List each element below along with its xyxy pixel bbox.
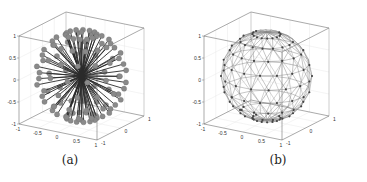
vector-tip-marker: [121, 86, 126, 91]
mesh-vertex: [308, 64, 310, 66]
mesh-edge: [254, 61, 260, 76]
y-tick-label: -1: [286, 140, 291, 146]
vector-tip-marker: [51, 43, 56, 48]
mesh-edge: [251, 90, 265, 91]
x-tick-label: -1: [201, 126, 206, 132]
z-tick-label: 0: [13, 77, 16, 83]
mesh-edge: [282, 45, 289, 47]
mesh-edge: [300, 70, 303, 86]
mesh-edge: [241, 76, 256, 78]
mesh-vertex: [255, 30, 257, 32]
mesh-edge: [233, 55, 242, 59]
vector-tip-marker: [54, 35, 59, 40]
mesh-edge: [268, 62, 277, 76]
mesh-vertex: [302, 69, 304, 71]
mesh-edge: [293, 102, 303, 113]
mesh-edge: [260, 103, 266, 113]
mesh-edge: [254, 103, 260, 113]
vector-tip-marker: [41, 47, 46, 52]
x-tick-label: -1: [16, 126, 21, 132]
mesh-edge: [291, 94, 300, 98]
mesh-edge: [229, 55, 232, 66]
vector-tip-marker: [34, 64, 39, 69]
mesh-edge: [253, 38, 262, 47]
vector-tip-marker: [107, 110, 112, 115]
y-tick-label: 0: [125, 128, 128, 134]
mesh-vertex: [293, 57, 295, 59]
mesh-vertex: [267, 61, 269, 63]
vector-tip-marker: [112, 45, 117, 50]
mesh-vertex: [311, 75, 313, 77]
vector-tip-marker: [81, 120, 86, 125]
mesh-edge: [244, 74, 260, 76]
mesh-vertex: [276, 75, 278, 77]
x-tick-label: -0.5: [218, 130, 227, 136]
mesh-vertex: [302, 49, 304, 51]
y-tick-label: 0: [310, 128, 313, 134]
vector-tip-marker: [59, 62, 64, 67]
mesh-vertex: [256, 36, 258, 38]
vector-tip-marker: [123, 80, 128, 85]
vector-tip-marker: [94, 95, 99, 100]
mesh-vertex: [253, 35, 255, 37]
vector-tip-marker: [111, 91, 116, 96]
mesh-vertex: [239, 109, 241, 111]
mesh-vertex: [235, 85, 237, 87]
mesh-vertex: [242, 35, 244, 37]
mesh-edge: [280, 105, 288, 107]
vector-tip-marker: [64, 115, 69, 120]
mesh-vertex: [276, 102, 278, 104]
vector-tip-marker: [40, 52, 45, 57]
caption-b: (b): [258, 153, 298, 167]
vector-tip-marker: [95, 48, 100, 53]
vector-tip-marker: [36, 76, 41, 81]
mesh-edge: [244, 107, 254, 116]
vector-tip-marker: [99, 41, 104, 46]
vector-tip-marker: [48, 76, 53, 81]
mesh-vertex: [291, 100, 293, 102]
mesh-edge: [247, 63, 256, 76]
vector-tip-marker: [77, 37, 82, 42]
mesh-vertex: [223, 69, 225, 71]
mesh-vertex: [271, 37, 273, 39]
vector-tip-marker: [85, 80, 90, 85]
vector-tip-marker: [34, 82, 39, 87]
vector-tip-marker: [54, 54, 59, 59]
mesh-vertex: [299, 85, 301, 87]
mesh-vertex: [241, 57, 243, 59]
mesh-edge: [282, 63, 297, 66]
mesh-vertex: [267, 112, 269, 114]
z-tick-label: 1: [13, 33, 16, 39]
mesh-vertex: [243, 73, 245, 75]
x-tick-label: 0.5: [258, 138, 265, 144]
vector-tip-marker: [116, 56, 121, 61]
vector-tip-marker: [108, 41, 113, 46]
mesh-vertex: [300, 53, 302, 55]
mesh-edge: [256, 49, 264, 62]
mesh-edge: [245, 45, 253, 47]
vector-tip-marker: [75, 95, 80, 100]
mesh-edge: [270, 103, 271, 113]
mesh-vertex: [292, 112, 294, 114]
mesh-vertex: [239, 38, 241, 40]
vector-tip-marker: [87, 28, 92, 33]
mesh-edge: [260, 103, 268, 113]
vector-tip-marker: [121, 61, 126, 66]
mesh-vertex: [224, 80, 226, 82]
x-tick-label: 0: [241, 134, 244, 140]
mesh-edge: [229, 66, 232, 82]
mesh-vertex: [223, 91, 225, 93]
vector-tip-marker: [83, 49, 88, 54]
mesh-edge: [273, 76, 289, 78]
mesh-vertex: [308, 91, 310, 93]
z-tick-label: 1: [198, 33, 201, 39]
z-tick-label: 0.5: [9, 55, 16, 61]
mesh-vertex: [244, 115, 246, 117]
mesh-edge: [292, 74, 300, 86]
mesh-vertex: [261, 121, 263, 123]
mesh-vertex: [220, 75, 222, 77]
vector-tip-marker: [84, 37, 89, 42]
mesh-edge: [232, 70, 236, 86]
vector-tip-marker: [46, 58, 51, 63]
mesh-vertex: [244, 44, 246, 46]
